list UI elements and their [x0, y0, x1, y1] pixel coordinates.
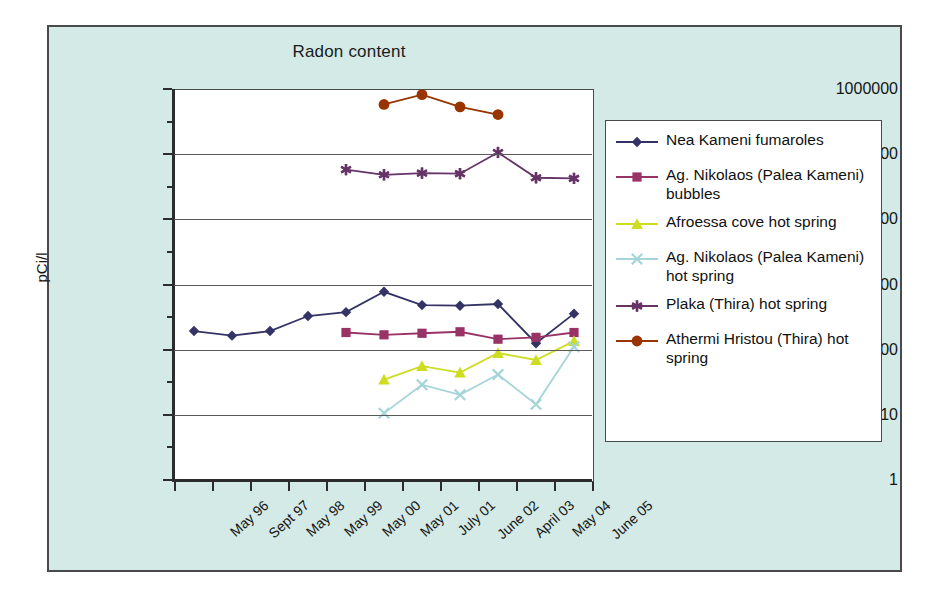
x-tick-label: June 05	[608, 497, 656, 542]
legend-label: Afroessa cove hot spring	[666, 212, 837, 231]
plot-area	[174, 89, 594, 482]
data-point	[417, 300, 427, 310]
y-tick-label: 1000000	[788, 80, 900, 98]
x-tick-mark	[592, 482, 594, 491]
legend-marker-square-icon	[614, 166, 660, 188]
data-point	[417, 380, 427, 390]
data-point	[341, 307, 351, 317]
y-tick-minor	[167, 121, 172, 123]
legend-label: Ag. Nikolaos (Palea Kameni) hot spring	[666, 247, 875, 285]
data-point	[341, 328, 350, 337]
x-tick-mark	[478, 482, 480, 491]
x-tick-mark	[440, 482, 442, 491]
x-tick-mark	[174, 482, 176, 491]
x-tick-mark	[250, 482, 252, 491]
x-tick-mark	[516, 482, 518, 491]
data-point	[379, 99, 390, 110]
y-tick-minor	[167, 251, 172, 253]
data-point	[531, 333, 540, 342]
data-point	[417, 329, 426, 338]
data-point	[379, 408, 389, 418]
series-line	[384, 341, 574, 379]
y-tick-minor	[167, 446, 172, 448]
x-tick-label: May 99	[341, 497, 386, 540]
legend-marker-diamond-icon	[614, 131, 660, 153]
legend-item[interactable]: Plaka (Thira) hot spring	[614, 294, 875, 320]
data-point	[493, 109, 504, 120]
data-point	[303, 311, 313, 321]
series-layer	[175, 90, 593, 481]
data-point	[416, 360, 428, 371]
y-tick-mark	[163, 218, 172, 220]
gridline	[174, 219, 592, 220]
x-tick-label: May 00	[379, 497, 424, 540]
gridline	[174, 285, 592, 286]
legend-label: Athermi Hristou (Thira) hot spring	[666, 329, 875, 367]
legend-item[interactable]: Nea Kameni fumaroles	[614, 130, 875, 156]
x-tick-label: April 03	[531, 497, 577, 541]
x-tick-label: June 02	[494, 497, 542, 542]
y-tick-minor	[167, 186, 172, 188]
legend-marker-triangle-icon	[614, 213, 660, 235]
x-tick-label: May 98	[303, 497, 348, 540]
chart-title: Radon content	[49, 42, 649, 62]
data-point	[379, 287, 389, 297]
gridline	[174, 415, 592, 416]
y-axis-title: pCi/l	[33, 252, 50, 282]
y-tick-minor	[167, 381, 172, 383]
y-tick-mark	[163, 88, 172, 90]
data-point	[227, 330, 237, 340]
legend-item[interactable]: Athermi Hristou (Thira) hot spring	[614, 329, 875, 367]
x-tick-label: July 01	[454, 497, 498, 539]
legend-item[interactable]: Ag. Nikolaos (Palea Kameni) hot spring	[614, 247, 875, 285]
data-point	[455, 327, 464, 336]
y-tick-mark	[163, 284, 172, 286]
data-point	[493, 369, 503, 379]
x-tick-mark	[364, 482, 366, 491]
data-point	[455, 102, 466, 113]
series-line	[384, 95, 498, 115]
legend-marker-star-icon	[614, 295, 660, 317]
y-tick-label: 1	[788, 471, 900, 489]
y-tick-mark	[163, 479, 172, 481]
legend-item[interactable]: Ag. Nikolaos (Palea Kameni) bubbles	[614, 165, 875, 203]
y-tick-minor	[167, 316, 172, 318]
legend-marker-circle-icon	[614, 330, 660, 352]
data-point	[379, 330, 388, 339]
y-tick-mark	[163, 153, 172, 155]
data-point	[378, 374, 390, 385]
chart-screenshot: Radon content pCi/l 10000001000001000010…	[0, 0, 951, 598]
data-point	[531, 399, 541, 409]
x-tick-label: May 01	[417, 497, 462, 540]
data-point	[455, 390, 465, 400]
series-line	[384, 347, 574, 413]
x-tick-mark	[554, 482, 556, 491]
legend-item[interactable]: Afroessa cove hot spring	[614, 212, 875, 238]
x-tick-mark	[288, 482, 290, 491]
x-tick-label: May 96	[227, 497, 272, 540]
y-tick-mark	[163, 349, 172, 351]
data-point	[493, 335, 502, 344]
y-tick-mark	[163, 414, 172, 416]
chart-legend: Nea Kameni fumarolesAg. Nikolaos (Palea …	[605, 120, 882, 442]
legend-label: Nea Kameni fumaroles	[666, 130, 824, 149]
data-point	[189, 326, 199, 336]
legend-label: Ag. Nikolaos (Palea Kameni) bubbles	[666, 165, 875, 203]
data-point	[417, 89, 428, 100]
data-point	[455, 300, 465, 310]
legend-label: Plaka (Thira) hot spring	[666, 294, 827, 313]
chart-card: Radon content pCi/l 10000001000001000010…	[47, 25, 902, 572]
data-point	[265, 326, 275, 336]
x-tick-label: May 04	[569, 497, 614, 540]
series-4	[341, 147, 579, 184]
x-tick-mark	[212, 482, 214, 491]
series-1	[341, 327, 578, 344]
gridline	[174, 350, 592, 351]
data-point	[493, 147, 503, 158]
x-tick-mark	[402, 482, 404, 491]
legend-marker-x-icon	[614, 248, 660, 270]
x-axis-line	[172, 479, 592, 482]
series-2	[378, 335, 580, 384]
gridline	[174, 154, 592, 155]
x-tick-mark	[326, 482, 328, 491]
